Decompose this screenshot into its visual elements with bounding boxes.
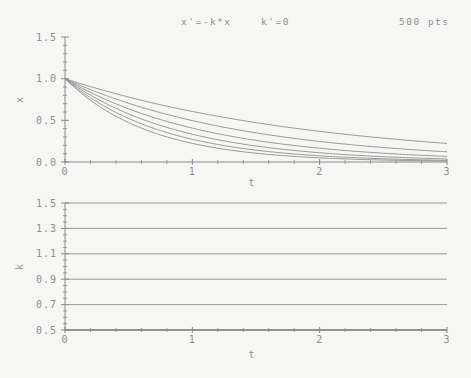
x-tick-label: 1 <box>189 334 196 345</box>
x-tick-label: 2 <box>316 334 323 345</box>
y-axis-title: k <box>14 263 25 270</box>
y-tick-label: 0.5 <box>36 325 57 336</box>
phase-plot-screen: x'=-k*x k'=0 500 pts 0.00.51.01.50123tx … <box>0 0 471 378</box>
x-axis-title: t <box>248 349 255 360</box>
x-tick-label: 0 <box>61 334 68 345</box>
y-tick-label: 1.5 <box>36 198 57 209</box>
y-tick-label: 0.7 <box>36 299 57 310</box>
x-tick-label: 3 <box>443 334 450 345</box>
y-tick-label: 0.9 <box>36 274 57 285</box>
y-tick-label: 1.3 <box>36 223 57 234</box>
k-vs-t-chart: 0.50.70.91.11.31.50123tk <box>0 0 471 378</box>
y-tick-label: 1.1 <box>36 248 57 259</box>
